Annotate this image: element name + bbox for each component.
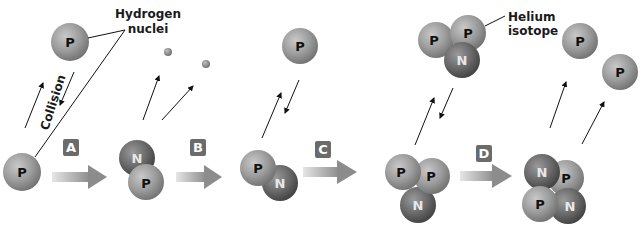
svg-text:P: P — [426, 169, 436, 184]
pointer-line — [485, 16, 505, 26]
arrow-up-icon — [162, 86, 193, 120]
svg-text:N: N — [457, 53, 468, 68]
svg-text:N: N — [275, 176, 286, 191]
emitted-particle — [202, 60, 210, 68]
svg-text:P: P — [65, 35, 75, 50]
arrow-down-icon — [440, 88, 453, 118]
svg-text:P: P — [575, 34, 585, 49]
hydrogen-nuclei-label: Hydrogen — [115, 7, 181, 21]
process-arrow-c-icon — [303, 160, 357, 184]
svg-text:P: P — [429, 33, 439, 48]
arrow-up-icon — [143, 76, 159, 120]
process-arrow-b-icon — [176, 165, 222, 189]
step-b-badge: B — [190, 139, 206, 156]
svg-text:P: P — [17, 165, 27, 180]
svg-text:N: N — [132, 151, 143, 166]
proton-right: P — [602, 54, 638, 90]
svg-text:B: B — [193, 140, 203, 155]
svg-text:P: P — [463, 26, 473, 41]
helium-isotope-bottom: N P P — [385, 154, 450, 223]
diagram-canvas: P P Hydrogen nuclei Collision A N P B — [0, 0, 644, 232]
svg-text:P: P — [253, 161, 263, 176]
arrow-up-icon — [550, 82, 566, 128]
proton-top: P — [282, 28, 318, 64]
emitted-particle — [164, 48, 172, 56]
helium-isotope-label-line2: isotope — [508, 24, 558, 38]
step-a-badge: A — [63, 139, 79, 156]
helium-isotope-top: P P N — [418, 15, 486, 78]
arrow-down-icon — [285, 80, 299, 113]
svg-text:N: N — [565, 199, 576, 214]
step-c-badge: C — [315, 141, 331, 158]
nuclear-fusion-diagram: P P Hydrogen nuclei Collision A N P B — [0, 0, 644, 232]
step-d-badge: D — [476, 145, 492, 162]
arrow-up-icon — [262, 93, 281, 138]
svg-text:P: P — [141, 176, 151, 191]
svg-text:P: P — [295, 39, 305, 54]
svg-text:N: N — [413, 198, 424, 213]
svg-text:D: D — [479, 146, 490, 161]
arrow-up-icon — [582, 102, 604, 144]
proton-top-right: P — [562, 23, 598, 59]
helium-isotope-label: Helium — [508, 10, 555, 24]
process-arrow-a-icon — [52, 165, 107, 189]
proton: P — [128, 164, 164, 200]
svg-text:P: P — [396, 165, 406, 180]
pointer-line — [88, 30, 125, 38]
proton-bottom-left: P — [3, 153, 41, 191]
svg-text:P: P — [615, 65, 625, 80]
process-arrow-d-icon — [460, 164, 512, 188]
svg-text:C: C — [318, 142, 328, 157]
proton-top-left: P — [51, 23, 89, 61]
proton: P — [240, 150, 276, 186]
hydrogen-nuclei-label-line2: nuclei — [128, 22, 169, 36]
arrow-up-icon — [415, 98, 434, 145]
helium-4-nucleus: P N N P — [522, 154, 586, 224]
svg-text:P: P — [535, 197, 545, 212]
collision-label: Collision — [38, 73, 69, 132]
svg-text:P: P — [561, 171, 571, 186]
svg-text:A: A — [66, 140, 76, 155]
svg-text:N: N — [537, 165, 548, 180]
